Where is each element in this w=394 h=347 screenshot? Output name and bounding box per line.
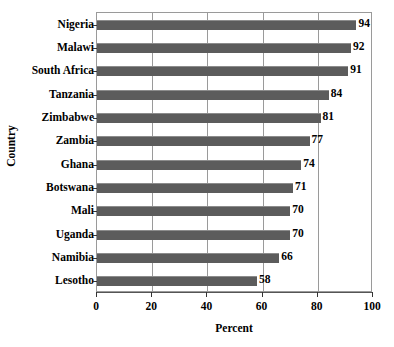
gridline [152, 13, 153, 291]
y-axis-tick [93, 211, 97, 212]
bar-value-label: 94 [358, 17, 370, 30]
bar [97, 230, 290, 240]
y-axis-tick [93, 188, 97, 189]
bar [97, 90, 329, 100]
x-axis-tick [96, 292, 97, 297]
y-axis-category-label: Uganda [56, 227, 94, 241]
y-axis-tick [93, 95, 97, 96]
plot-area [96, 12, 372, 292]
bar-value-label: 70 [292, 203, 304, 216]
y-axis-category-label: Botswana [46, 180, 94, 194]
bar [97, 43, 351, 53]
y-axis-tick [93, 258, 97, 259]
x-axis-line [96, 292, 372, 293]
bar [97, 276, 257, 286]
bar-value-label: 66 [281, 250, 293, 263]
bar-value-label: 70 [292, 227, 304, 240]
gridline [263, 13, 264, 291]
x-axis-tick [317, 292, 318, 297]
x-axis-tick-label: 60 [242, 300, 282, 312]
y-axis-category-labels: NigeriaMalawiSouth AfricaTanzaniaZimbabw… [18, 8, 94, 292]
x-axis-title-label: Percent [96, 322, 372, 334]
y-axis-category-label: Namibia [52, 250, 94, 264]
bar [97, 136, 310, 146]
bar-value-label: 71 [295, 180, 307, 193]
y-axis-category-label: Malawi [57, 40, 94, 54]
x-axis-tick [206, 292, 207, 297]
y-axis-title-label: Country [5, 125, 17, 167]
x-axis-tick [262, 292, 263, 297]
y-axis-tick [93, 118, 97, 119]
gridline [207, 13, 208, 291]
bar [97, 206, 290, 216]
y-axis-category-label: Lesotho [55, 273, 94, 287]
bar [97, 66, 348, 76]
bar-value-label: 91 [350, 63, 362, 76]
y-axis-tick [93, 281, 97, 282]
y-axis-tick [93, 165, 97, 166]
bar [97, 20, 356, 30]
bar [97, 113, 321, 123]
gridline [318, 13, 319, 291]
x-axis-tick-label: 80 [297, 300, 337, 312]
x-axis-tick-label: 40 [186, 300, 226, 312]
x-axis-tick-label: 100 [352, 300, 392, 312]
y-axis-category-label: Zimbabwe [42, 110, 94, 124]
bar [97, 160, 301, 170]
y-axis-tick [93, 48, 97, 49]
x-axis-tick [372, 292, 373, 297]
y-axis-tick [93, 71, 97, 72]
x-axis-tick-label: 20 [131, 300, 171, 312]
bar [97, 253, 279, 263]
y-axis-category-label: South Africa [32, 63, 94, 77]
y-axis-category-label: Nigeria [58, 17, 94, 31]
bar-value-label: 84 [331, 87, 343, 100]
x-axis-tick [151, 292, 152, 297]
y-axis-tick [93, 141, 97, 142]
x-axis-tick-label: 0 [76, 300, 116, 312]
y-axis-tick [93, 25, 97, 26]
y-axis-category-label: Zambia [56, 133, 94, 147]
bar-value-label: 77 [312, 133, 324, 146]
bar-value-label: 58 [259, 273, 271, 286]
bar-chart: Country NigeriaMalawiSouth AfricaTanzani… [0, 0, 394, 347]
y-axis-tick [93, 235, 97, 236]
bar-value-label: 81 [323, 110, 335, 123]
bar-value-label: 92 [353, 40, 365, 53]
y-axis-category-label: Mali [71, 203, 94, 217]
y-axis-category-label: Tanzania [49, 87, 94, 101]
bar-value-label: 74 [303, 157, 315, 170]
y-axis-category-label: Ghana [61, 157, 94, 171]
bar [97, 183, 293, 193]
